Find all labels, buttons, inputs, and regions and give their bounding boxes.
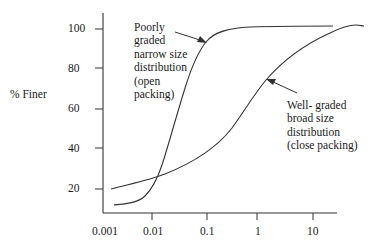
y-tick-label-40: 40 bbox=[68, 142, 80, 154]
x-tick-label-0.1: 0.1 bbox=[200, 225, 214, 237]
poorly-graded-annotation: Poorly graded narrow size distribution (… bbox=[134, 21, 187, 101]
y-tick-label-20: 20 bbox=[68, 182, 80, 194]
well-graded-annotation: Well- graded broad size distribution (cl… bbox=[287, 99, 358, 153]
y-axis-label: % Finer bbox=[10, 88, 47, 101]
y-tick-label-80: 80 bbox=[68, 62, 80, 74]
x-tick-label-0.001: 0.001 bbox=[92, 225, 118, 237]
x-ticks bbox=[152, 213, 313, 220]
y-tick-label-100: 100 bbox=[68, 22, 85, 34]
x-tick-label-10: 10 bbox=[307, 225, 319, 237]
y-tick-label-60: 60 bbox=[68, 102, 80, 114]
x-tick-label-1: 1 bbox=[255, 225, 261, 237]
y-ticks bbox=[95, 29, 103, 189]
well-graded-arrow bbox=[266, 79, 297, 93]
x-tick-label-0.01: 0.01 bbox=[143, 225, 163, 237]
